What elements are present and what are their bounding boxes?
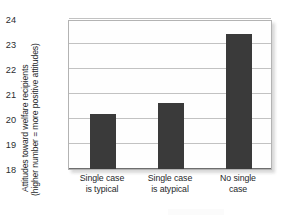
x-axis-category-label-line: is typical	[68, 184, 136, 195]
plot-area	[68, 20, 272, 170]
y-axis-tick-label: 22	[0, 65, 16, 75]
x-axis-category-label: Single caseis atypical	[136, 173, 204, 194]
y-axis-tick-label: 23	[0, 40, 16, 50]
y-axis-tick-label: 21	[0, 90, 16, 100]
bar-chart-figure: Attitudes toward welfare recipients (hig…	[0, 0, 290, 218]
x-axis-category-label-line: is atypical	[136, 184, 204, 195]
x-axis-category-label: No singlecase	[204, 173, 272, 194]
y-axis-title-line-2: (higher number = more positive attitudes…	[30, 43, 40, 196]
bar	[158, 103, 184, 169]
y-axis-title-line-1: Attitudes toward welfare recipients	[20, 65, 30, 192]
x-axis-category-labels: Single caseis typicalSingle caseis atypi…	[68, 173, 272, 207]
bar	[90, 114, 116, 169]
x-axis-category-label-line: Single case	[68, 173, 136, 184]
gridline	[69, 18, 271, 19]
y-axis-tick-label: 24	[0, 15, 16, 25]
page-artifact	[168, 209, 224, 215]
y-axis-tick-label: 19	[0, 140, 16, 150]
bar	[226, 34, 252, 169]
x-axis-category-label-line: case	[204, 184, 272, 195]
x-axis-category-label-line: No single	[204, 173, 272, 184]
y-axis-tick-label: 18	[0, 165, 16, 175]
y-axis-tick-label: 20	[0, 115, 16, 125]
x-axis-category-label: Single caseis typical	[68, 173, 136, 194]
plot-inner	[69, 21, 271, 169]
x-axis-category-label-line: Single case	[136, 173, 204, 184]
